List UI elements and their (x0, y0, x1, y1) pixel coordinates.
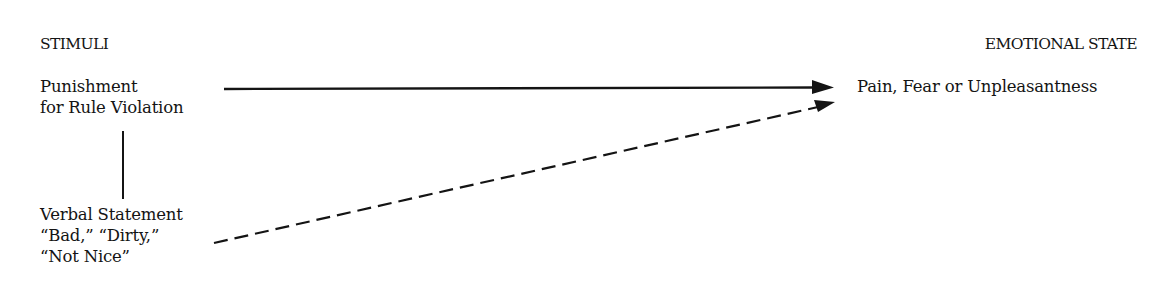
arrowhead-icon (812, 80, 834, 94)
solid-arrow-punishment-to-pain (224, 80, 834, 94)
diagram-connectors (0, 0, 1168, 297)
dashed-arrow-verbal-to-pain (214, 100, 835, 243)
arrowhead-icon (814, 100, 835, 112)
